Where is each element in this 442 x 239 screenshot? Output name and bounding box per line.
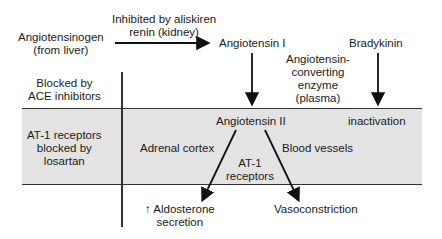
angiotensinogen-label: Angiotensinogen (from liver) bbox=[18, 31, 104, 57]
losartan-label: AT-1 receptors blocked by losartan bbox=[27, 129, 102, 168]
blood-vessels-label: Blood vessels bbox=[282, 142, 353, 155]
inactivation-label: inactivation bbox=[348, 115, 406, 128]
bradykinin-label: Bradykinin bbox=[349, 37, 403, 50]
vasoconstriction-label: Vasoconstriction bbox=[274, 203, 358, 216]
renin-label: Inhibited by aliskiren renin (kidney) bbox=[112, 13, 216, 39]
ace-label: Angiotensin- converting enzyme (plasma) bbox=[286, 53, 350, 105]
at1-receptors-label: AT-1 receptors bbox=[226, 157, 274, 183]
adrenal-cortex-label: Adrenal cortex bbox=[140, 142, 214, 155]
angiotensin-i-label: Angiotensin I bbox=[219, 37, 286, 50]
aldosterone-label: ↑ Aldosterone secretion bbox=[145, 203, 215, 229]
ace-inhibitors-label: Blocked by ACE inhibitors bbox=[28, 77, 101, 103]
angiotensin-ii-label: Angiotensin II bbox=[216, 115, 286, 128]
